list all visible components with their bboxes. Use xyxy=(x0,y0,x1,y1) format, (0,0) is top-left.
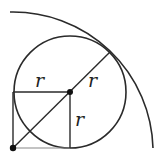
center-point xyxy=(67,89,73,95)
label-vertical-r: r xyxy=(75,108,86,130)
corner-point xyxy=(10,145,16,151)
diagonal-line xyxy=(13,52,110,148)
label-horizontal-r: r xyxy=(35,69,46,91)
label-diagonal-r: r xyxy=(88,69,99,91)
geometry-diagram: r r r xyxy=(0,0,165,159)
